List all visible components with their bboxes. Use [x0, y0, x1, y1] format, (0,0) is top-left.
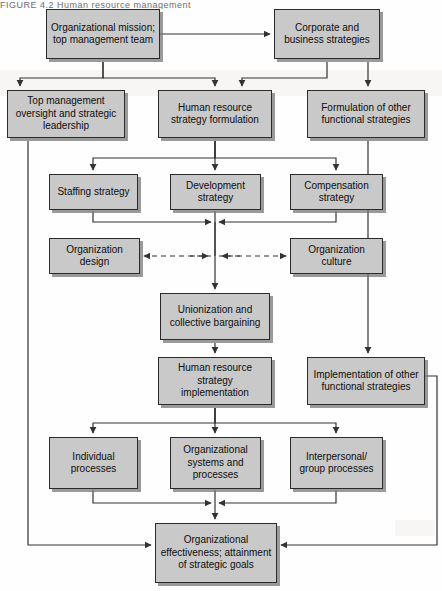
node-label: Corporate and business strategies — [278, 22, 376, 47]
node-implementation-other-strategies[interactable]: Implementation of other functional strat… — [307, 357, 425, 405]
node-organizational-effectiveness[interactable]: Organizational effectiveness; attainment… — [155, 523, 277, 583]
node-label: Staffing strategy — [53, 186, 134, 199]
node-label: Individual processes — [53, 451, 134, 476]
edge-hr-impl-to-individual — [93, 408, 215, 433]
node-hr-strategy-formulation[interactable]: Human resource strategy formulation — [158, 90, 272, 138]
node-label: Human resource strategy formulation — [162, 102, 268, 127]
node-staffing-strategy[interactable]: Staffing strategy — [49, 174, 138, 210]
node-label: Unionization and collective bargaining — [164, 304, 266, 329]
node-organizational-mission[interactable]: Organizational mission; top management t… — [46, 9, 160, 59]
node-hr-strategy-implementation[interactable]: Human resource strategy implementation — [158, 357, 272, 405]
edge-compensation-to-spine — [219, 211, 336, 222]
node-unionization-collective-bargaining[interactable]: Unionization and collective bargaining — [160, 293, 270, 340]
edge-mission-to-hr-formulation — [103, 62, 215, 86]
edge-hr-form-to-compensation — [215, 141, 336, 170]
node-compensation-strategy[interactable]: Compensation strategy — [290, 174, 383, 210]
node-formulation-other-strategies[interactable]: Formulation of other functional strategi… — [307, 90, 425, 138]
node-label: Compensation strategy — [294, 180, 379, 205]
node-label: Implementation of other functional strat… — [311, 369, 421, 394]
node-individual-processes[interactable]: Individual processes — [49, 437, 138, 489]
node-label: Organizational mission; top management t… — [50, 22, 156, 47]
node-label: Organization design — [53, 244, 136, 269]
edge-mission-to-top-mgmt — [20, 62, 103, 86]
node-development-strategy[interactable]: Development strategy — [170, 174, 261, 210]
edge-interpersonal-to-spine — [219, 490, 336, 503]
node-label: Organizational effectiveness; attainment… — [159, 534, 273, 572]
node-label: Organization culture — [294, 244, 379, 269]
edge-corporate-to-hr-formulation — [242, 62, 327, 86]
edge-individual-to-spine — [93, 490, 211, 503]
node-interpersonal-group-processes[interactable]: Interpersonal/ group processes — [290, 437, 383, 489]
edge-staffing-to-spine — [93, 211, 211, 222]
edge-hr-form-to-staffing — [93, 141, 215, 170]
node-label: Formulation of other functional strategi… — [311, 102, 421, 127]
node-label: Top management oversight and strategic l… — [11, 95, 121, 133]
node-label: Interpersonal/ group processes — [294, 451, 379, 476]
node-organizational-systems-processes[interactable]: Organizational systems and processes — [170, 437, 261, 489]
node-label: Development strategy — [174, 180, 257, 205]
node-label: Organizational systems and processes — [174, 444, 257, 482]
node-top-management-oversight[interactable]: Top management oversight and strategic l… — [7, 90, 125, 138]
node-corporate-business-strategies[interactable]: Corporate and business strategies — [274, 9, 380, 59]
diagram-page: FIGURE 4.2 Human resource management — [0, 0, 442, 591]
node-organization-culture[interactable]: Organization culture — [290, 238, 383, 274]
node-label: Human resource strategy implementation — [162, 362, 268, 400]
edge-hr-impl-to-interpersonal — [215, 408, 336, 433]
node-organization-design[interactable]: Organization design — [49, 238, 140, 274]
